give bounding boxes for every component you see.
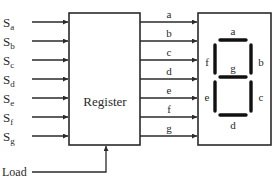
load-label: Load [2,165,27,179]
input-sg: Sg [3,129,68,146]
input-sub: a [10,22,14,32]
register-block: Register [69,13,140,145]
input-sb: Sb [3,34,68,51]
segment-label-d: d [230,119,236,131]
input-sa: Sa [3,15,68,32]
svg-text:Se: Se [3,91,14,108]
svg-text:Sc: Sc [3,53,14,70]
input-se: Se [3,91,68,108]
output-signals: a b c d e f g [140,8,197,136]
svg-text:Sd: Sd [3,72,15,89]
seven-segment-display: a f b g e c d [198,13,271,145]
register-seven-segment-diagram: Register Sa Sb Sc Sd Se Sf Sg [0,0,280,185]
output-label-d: d [166,65,172,77]
output-label-e: e [167,84,172,96]
output-label-f: f [167,103,171,115]
segment-label-f: f [205,56,209,68]
output-label-c: c [167,46,172,58]
segment-label-a: a [231,25,236,37]
svg-text:Sa: Sa [3,15,14,32]
segment-label-c: c [259,91,264,103]
output-label-g: g [166,122,172,134]
input-sf: Sf [3,110,68,127]
segment-label-e: e [205,91,210,103]
load-signal: Load [2,146,106,179]
register-label: Register [83,94,127,109]
input-sd: Sd [3,72,68,89]
svg-text:Sf: Sf [3,110,13,127]
segment-label-b: b [258,56,264,68]
segment-label-g: g [230,62,236,74]
input-main: S [3,15,10,30]
input-signals: Sa Sb Sc Sd Se Sf Sg [3,15,68,146]
svg-text:Sb: Sb [3,34,15,51]
input-sc: Sc [3,53,68,70]
output-label-b: b [166,27,172,39]
load-line [32,146,106,172]
output-label-a: a [167,8,172,20]
svg-text:Sg: Sg [3,129,15,146]
